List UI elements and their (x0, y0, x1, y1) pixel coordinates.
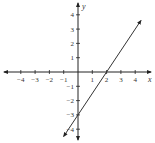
y-tick-label: 3 (71, 26, 75, 34)
x-tick-label: −3 (31, 76, 39, 84)
chart-svg: −4−3−2−11234−4−3−2−11234xy (0, 0, 155, 143)
y-tick-label: 4 (71, 11, 75, 19)
x-tick-label: 4 (133, 76, 137, 84)
y-axis-label: y (81, 2, 86, 11)
x-tick-label: −4 (17, 76, 25, 84)
x-tick-label: 1 (91, 76, 95, 84)
x-tick-label: 2 (105, 76, 109, 84)
coordinate-plane-chart: −4−3−2−11234−4−3−2−11234xy (0, 0, 155, 143)
x-tick-label: −2 (46, 76, 54, 84)
y-tick-label: −3 (67, 111, 75, 119)
y-tick-label: 2 (71, 40, 75, 48)
x-axis-label: x (147, 75, 152, 84)
y-tick-label: 1 (71, 54, 75, 62)
y-tick-label: −1 (67, 83, 75, 91)
x-tick-label: 3 (119, 76, 123, 84)
y-tick-label: −2 (67, 97, 75, 105)
plotted-line (64, 21, 141, 137)
